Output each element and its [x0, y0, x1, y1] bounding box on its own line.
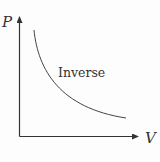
- chart-root: P V Inverse: [0, 0, 160, 162]
- chart-svg: P V Inverse: [0, 0, 160, 162]
- y-axis-label: P: [1, 13, 13, 31]
- curve-annotation: Inverse: [58, 65, 105, 80]
- x-axis-label: V: [145, 129, 158, 147]
